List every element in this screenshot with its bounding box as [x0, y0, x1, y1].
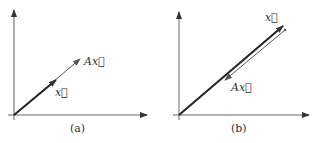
- caption-a: (a): [70, 122, 85, 135]
- panel-a: [8, 10, 147, 120]
- panel-b: [173, 12, 309, 120]
- x-label-b: x⃗: [265, 11, 278, 24]
- x-vector-a: [14, 80, 56, 115]
- x-vector-b: [179, 26, 283, 115]
- ax-label-a: Ax⃗: [83, 55, 105, 68]
- ax-tail-dot-b: [284, 29, 287, 32]
- x-label-a: x⃗: [55, 86, 68, 99]
- ax-vector-b: [225, 30, 285, 80]
- ax-label-b: Ax⃗: [230, 81, 252, 94]
- eigenvector-diagram: Ax⃗ x⃗ (a) x⃗ Ax⃗ (b): [0, 0, 317, 143]
- caption-b: (b): [231, 122, 247, 135]
